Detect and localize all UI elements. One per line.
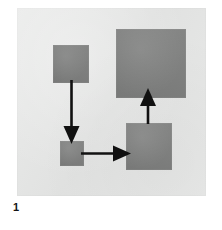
block-bottom-left[interactable] bbox=[60, 141, 84, 166]
block-top-left[interactable] bbox=[53, 45, 89, 83]
figure-container: 1 bbox=[0, 0, 222, 230]
block-top-right[interactable] bbox=[116, 29, 186, 98]
figure-number-label: 1 bbox=[13, 201, 19, 213]
block-bottom-right[interactable] bbox=[126, 123, 172, 170]
